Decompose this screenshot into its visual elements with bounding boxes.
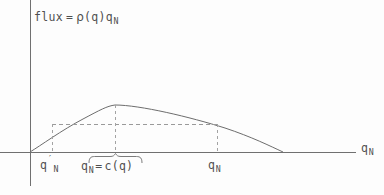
title-argument: (q) [84,10,106,24]
prime-mark: ′ [47,153,53,164]
flux-diagram-figure: flux=ρ(q)qN q′N qN=c(q) qN qN [0,0,384,195]
rho-symbol: ρ [76,10,84,24]
axis-variable: q [361,141,368,155]
title-equals: = [66,10,73,24]
right-subscript: N [216,164,221,174]
title-prefix: flux [34,10,63,24]
peak-equals: = [95,159,102,173]
flux-title-label: flux=ρ(q)qN [34,11,118,24]
label-q-n: qN [208,160,220,172]
left-subscript: N [54,164,59,174]
peak-subscript: N [89,165,94,175]
title-variable: q [106,10,113,24]
peak-variable: q [81,159,88,173]
axis-subscript: N [369,147,374,157]
right-variable: q [208,158,215,172]
label-q-prime-n: q′N [40,160,58,172]
title-subscript: N [113,16,118,26]
label-peak-q-n-equals-c-q: qN=c(q) [81,161,133,173]
x-axis-label: qN [361,143,373,155]
flux-curve [30,105,283,152]
peak-expression: c(q) [104,159,133,173]
